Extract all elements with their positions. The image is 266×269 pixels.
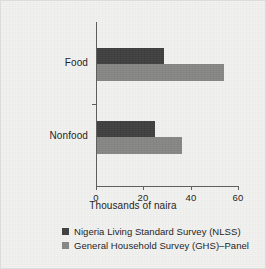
bar-chart-figure: 0 20 40 60 Food Nonfood Thousands of nai… <box>0 0 266 269</box>
plot-area: 0 20 40 60 <box>96 22 238 186</box>
bar-food-nlss <box>97 48 164 64</box>
x-axis-line <box>96 186 238 187</box>
x-axis-tick-0 <box>96 186 97 190</box>
legend-item-ghs: General Household Survey (GHS)–Panel <box>0 238 266 252</box>
category-label-food: Food <box>20 57 88 68</box>
chart-legend: Nigeria Living Standard Survey (NLSS) Ge… <box>0 224 266 252</box>
bar-food-ghs <box>97 64 224 81</box>
legend-label-nlss: Nigeria Living Standard Survey (NLSS) <box>74 226 241 237</box>
y-axis-line <box>96 22 97 186</box>
x-axis-tick-40 <box>191 186 192 190</box>
bar-nonfood-nlss <box>97 121 155 137</box>
legend-swatch-icon-nlss <box>62 228 69 235</box>
bar-nonfood-ghs <box>97 137 182 154</box>
x-axis-tick-20 <box>143 186 144 190</box>
x-axis-tick-60 <box>238 186 239 190</box>
legend-label-ghs: General Household Survey (GHS)–Panel <box>74 240 249 251</box>
y-axis-tick-separator <box>92 104 96 105</box>
legend-item-nlss: Nigeria Living Standard Survey (NLSS) <box>0 224 266 238</box>
x-axis-label: Thousands of naira <box>0 200 266 211</box>
legend-swatch-icon-ghs <box>62 242 69 249</box>
category-label-nonfood: Nonfood <box>12 130 88 141</box>
